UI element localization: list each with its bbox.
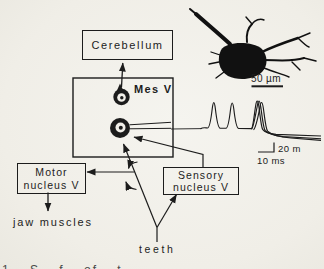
motor-nucleus-label-line1: Motor <box>35 166 67 179</box>
arrow-to-cerebellum <box>122 63 123 87</box>
cerebellum-box: Cerebellum <box>82 30 173 60</box>
sensory-nucleus-label-line2: nucleus V <box>173 181 229 194</box>
spike-traces <box>201 101 322 140</box>
teeth-label: teeth <box>139 243 175 255</box>
recording-electrode <box>130 122 202 129</box>
sensory-nucleus-box: Sensory nucleus V <box>163 167 239 195</box>
caption-fragment: 1 S f of t <box>2 263 232 269</box>
mes-v-label: Mes V <box>134 83 172 95</box>
motor-nucleus-box: Motor nucleus V <box>17 163 86 194</box>
micrograph-scale-bar <box>252 85 284 87</box>
motor-nucleus-label-line2: nucleus V <box>23 179 79 192</box>
micrograph-scale-label: 50 µm <box>251 73 281 84</box>
time-scale-label: 10 ms <box>257 155 285 166</box>
amplitude-scale-label: 20 m <box>278 143 301 154</box>
neuron-micrograph <box>190 9 316 79</box>
arrow-sensory-nucleus-to-mesv <box>134 137 203 167</box>
jaw-muscles-label: jaw muscles <box>13 216 93 228</box>
mesv-soma-upper <box>113 84 129 106</box>
mesv-soma-lower <box>110 118 130 138</box>
arrow-teeth-to-sensory-nucleus <box>157 195 177 228</box>
trace-calibration-bars <box>258 143 274 153</box>
cerebellum-label: Cerebellum <box>91 39 163 51</box>
figure-mesencephalic-trigeminal-circuit: Cerebellum Motor nucleus V Sensory nucle… <box>0 0 324 269</box>
collateral-curved-arrow-lower <box>126 182 137 190</box>
sensory-nucleus-label-line1: Sensory <box>178 169 224 182</box>
